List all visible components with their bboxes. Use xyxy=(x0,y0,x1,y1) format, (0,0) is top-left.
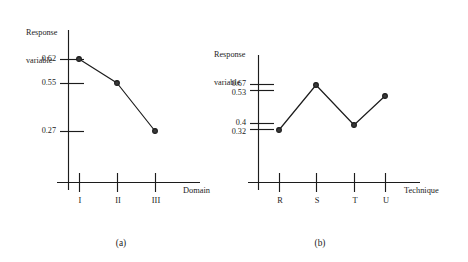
x-tick-label-b-1: S xyxy=(308,196,326,205)
y-tick-label-a-0: 0.62 xyxy=(22,54,56,63)
x-axis-name-a: Domain xyxy=(183,186,210,195)
y-tick-label-b-1: 0.53 xyxy=(212,88,246,97)
x-axis-name-b: Technique xyxy=(404,186,439,195)
series-line-b xyxy=(279,85,385,130)
y-tick-label-a-1: 0.55 xyxy=(22,78,56,87)
y-tick-label-a-2: 0.27 xyxy=(22,126,56,135)
y-axis-title-a: Response variable xyxy=(26,10,57,84)
panel-b-y-ticks xyxy=(250,85,274,130)
data-point-a-II xyxy=(115,81,120,86)
x-tick-label-a-0: I xyxy=(71,196,89,205)
data-point-a-I xyxy=(77,57,82,62)
x-tick-label-b-2: T xyxy=(346,196,364,205)
series-line-a xyxy=(79,59,155,131)
y-tick-label-b-2: 0.4 xyxy=(212,118,246,127)
panel-a-markers xyxy=(77,57,158,134)
y-axis-title-b-line1: Response xyxy=(214,50,245,59)
data-point-b-T xyxy=(352,123,357,128)
panel-a-axes xyxy=(57,30,200,190)
y-tick-label-b-3: 0.32 xyxy=(212,127,246,136)
x-tick-label-b-0: R xyxy=(271,196,289,205)
panel-b-axes xyxy=(248,55,420,190)
data-point-a-III xyxy=(153,129,158,134)
x-tick-label-b-3: U xyxy=(377,196,395,205)
x-tick-label-a-2: III xyxy=(147,196,165,205)
y-axis-title-a-line1: Response xyxy=(26,28,57,37)
panel-a-y-ticks xyxy=(60,60,84,132)
data-point-b-U xyxy=(383,94,388,99)
panel-caption-b: (b) xyxy=(305,238,335,249)
panel-b-markers xyxy=(277,83,388,133)
data-point-b-S xyxy=(314,83,319,88)
y-tick-label-b-0: 0.67 xyxy=(212,79,246,88)
panel-caption-a: (a) xyxy=(106,238,136,249)
x-tick-label-a-1: II xyxy=(109,196,127,205)
figure-container: Response variable 0.62 0.55 0.27 I II II… xyxy=(0,0,468,262)
data-point-b-R xyxy=(277,128,282,133)
